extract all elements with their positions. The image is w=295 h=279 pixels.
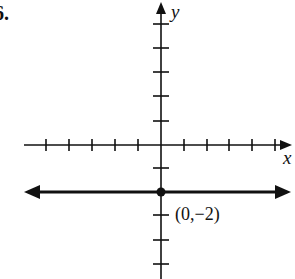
- line-left-arrow-icon: [24, 185, 40, 199]
- point-label: (0,−2): [175, 205, 220, 223]
- point-marker: [157, 188, 166, 197]
- coordinate-plane: [0, 0, 295, 279]
- y-axis-arrow-icon: [156, 2, 166, 14]
- x-axis-label: x: [283, 148, 291, 167]
- line-right-arrow-icon: [275, 185, 291, 199]
- y-axis-label: y: [171, 2, 179, 21]
